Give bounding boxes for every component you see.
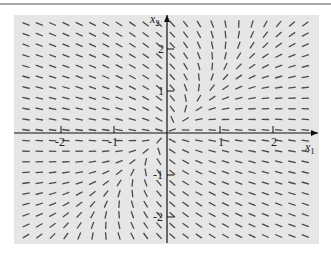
slope-segment: [119, 211, 120, 218]
slope-segment: [89, 33, 96, 36]
slope-segment: [209, 161, 216, 164]
slope-segment: [157, 191, 162, 197]
slope-segment: [50, 223, 56, 227]
slope-segment: [198, 84, 199, 91]
slope-segment: [104, 191, 109, 197]
slope-segment: [235, 203, 242, 206]
slope-segment: [63, 213, 69, 217]
slope-segment: [49, 33, 56, 36]
slope-segment: [209, 130, 216, 131]
slope-segment: [302, 172, 309, 174]
slope-segment: [249, 224, 256, 227]
slope-segment: [158, 148, 160, 155]
slope-segment: [142, 96, 149, 100]
slope-segment: [76, 182, 83, 184]
slope-segment: [222, 203, 229, 206]
slope-segment: [89, 161, 96, 162]
slope-segment: [169, 170, 175, 175]
slope-segment: [143, 32, 149, 36]
slope-segment: [197, 42, 200, 49]
slope-segment: [90, 201, 95, 207]
slope-segment: [103, 44, 110, 47]
x1-axis-label: x1: [304, 140, 315, 156]
slope-segment: [170, 43, 175, 48]
slope-segment: [302, 203, 309, 205]
slope-segment: [156, 233, 161, 238]
slope-segment: [197, 31, 201, 38]
y-tick-label: -1: [153, 168, 163, 182]
slope-segment: [156, 64, 162, 69]
slope-segment: [196, 223, 202, 227]
slope-segment: [262, 87, 269, 89]
slope-segment: [49, 23, 56, 26]
slope-segment: [209, 181, 216, 184]
slope-segment: [182, 160, 189, 164]
slope-segment: [170, 53, 175, 58]
slope-segment: [116, 97, 123, 100]
slope-segment: [22, 183, 29, 184]
slope-segment: [209, 192, 216, 195]
slope-segment: [36, 193, 43, 195]
slope-segment: [143, 54, 149, 58]
slope-segment: [262, 150, 269, 152]
y-tick-label: 2: [158, 42, 164, 56]
slope-segment: [143, 64, 149, 68]
slope-segment: [182, 118, 188, 122]
slope-segment: [184, 84, 187, 91]
slope-segment: [169, 139, 176, 142]
slope-segment: [89, 97, 96, 99]
slope-segment: [116, 22, 122, 26]
slope-segment: [275, 161, 282, 163]
slope-segment: [222, 192, 229, 195]
slope-segment: [196, 213, 202, 217]
slope-segment: [102, 161, 109, 163]
slope-segment: [89, 76, 96, 79]
slope-segment: [182, 181, 188, 185]
slope-segment: [23, 23, 30, 26]
slope-segment: [49, 108, 56, 110]
slope-segment: [102, 65, 109, 68]
slope-segment: [36, 97, 43, 99]
slope-segment: [76, 172, 83, 174]
slope-segment: [102, 119, 109, 121]
slope-segment: [262, 182, 269, 184]
slope-segment: [248, 98, 255, 99]
slope-segment: [196, 202, 202, 206]
slope-segment: [36, 203, 43, 205]
slope-segment: [89, 54, 96, 57]
slope-segment: [156, 118, 163, 122]
slope-segment: [118, 232, 120, 239]
slope-segment: [170, 21, 175, 26]
slope-segment: [276, 32, 282, 37]
slope-segment: [196, 234, 202, 238]
slope-segment: [77, 212, 82, 217]
slope-segment: [170, 85, 175, 91]
slope-segment: [103, 22, 110, 26]
slope-segment: [76, 76, 83, 79]
slope-segment: [142, 118, 149, 121]
slope-segment: [288, 151, 295, 152]
slope-segment: [36, 119, 43, 120]
slope-segment: [209, 224, 215, 228]
slope-segment: [89, 119, 96, 121]
slope-segment: [36, 108, 43, 110]
slope-segment: [249, 53, 254, 58]
slope-segment: [275, 192, 282, 194]
slope-segment: [302, 55, 309, 57]
slope-segment: [302, 224, 309, 227]
slope-segment: [288, 140, 295, 141]
slope-segment: [129, 22, 135, 26]
slope-segment: [248, 140, 255, 141]
slope-segment: [170, 95, 175, 101]
slope-segment: [275, 151, 282, 152]
slope-segment: [144, 190, 147, 197]
slope-segment: [129, 86, 136, 89]
slope-segment: [222, 161, 229, 163]
slope-segment: [235, 97, 242, 99]
slope-segment: [238, 42, 241, 49]
slope-segment: [62, 182, 69, 184]
slope-segment: [235, 150, 242, 152]
slope-segment: [143, 75, 149, 79]
slope-segment: [143, 149, 149, 154]
slope-segment: [275, 98, 282, 99]
